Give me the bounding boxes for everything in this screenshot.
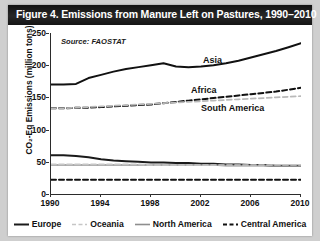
y-tick-mark — [46, 33, 49, 34]
series-line-oceania — [51, 164, 301, 165]
y-tick-label: 200 — [20, 60, 46, 70]
x-tick-mark — [100, 194, 101, 197]
page-title: Figure 4. Emissions from Manure Left on … — [16, 8, 316, 20]
y-tick-mark — [46, 97, 49, 98]
figure-card: Figure 4. Emissions from Manure Left on … — [8, 5, 312, 236]
series-lines — [51, 33, 301, 194]
x-tick-mark — [150, 194, 151, 197]
x-tick-label: 1990 — [33, 198, 67, 208]
legend-label: Oceania — [90, 219, 123, 229]
legend-swatch-icon — [135, 221, 150, 228]
legend-item-oceania[interactable]: Oceania — [72, 219, 123, 229]
chart-legend: EuropeOceaniaNorth AmericaCentral Americ… — [8, 214, 312, 234]
y-tick-mark — [46, 194, 49, 195]
y-tick-mark — [46, 162, 49, 163]
y-axis-ticks: 050100150200250 — [16, 25, 46, 200]
legend-swatch-icon — [14, 221, 29, 228]
y-tick-label: 150 — [20, 92, 46, 102]
legend-item-europe[interactable]: Europe — [14, 219, 62, 229]
legend-label: Central America — [241, 219, 307, 229]
legend-label: Europe — [32, 219, 62, 229]
x-tick-mark — [200, 194, 201, 197]
x-tick-label: 1994 — [83, 198, 117, 208]
y-tick-label: 50 — [20, 157, 46, 167]
x-tick-mark — [50, 194, 51, 197]
plot-region: Source: FAOSTAT AsiaAfricaSouth America — [50, 33, 301, 195]
x-tick-mark — [250, 194, 251, 197]
x-tick-mark — [300, 194, 301, 197]
legend-swatch-icon — [223, 221, 238, 228]
x-tick-label: 1998 — [133, 198, 167, 208]
figure-title-bar: Figure 4. Emissions from Manure Left on … — [8, 5, 312, 25]
series-label-asia: Asia — [203, 55, 222, 65]
chart-area: CO₂-Eq Emissions (million tons) 05010015… — [8, 25, 312, 236]
y-tick-label: 100 — [20, 125, 46, 135]
legend-item-north-america[interactable]: North America — [135, 219, 212, 229]
y-tick-mark — [46, 130, 49, 131]
x-tick-label: 2002 — [183, 198, 217, 208]
y-tick-mark — [46, 65, 49, 66]
legend-swatch-icon — [72, 221, 87, 228]
series-line-asia — [51, 43, 301, 84]
x-axis-ticks: 199019941998200220062010 — [50, 194, 302, 212]
y-tick-label: 250 — [20, 28, 46, 38]
legend-item-central-america[interactable]: Central America — [223, 219, 307, 229]
legend-label: North America — [153, 219, 212, 229]
series-label-africa: Africa — [191, 85, 217, 95]
x-tick-label: 2006 — [233, 198, 267, 208]
x-tick-label: 2010 — [283, 198, 317, 208]
series-label-south-america: South America — [201, 103, 264, 113]
